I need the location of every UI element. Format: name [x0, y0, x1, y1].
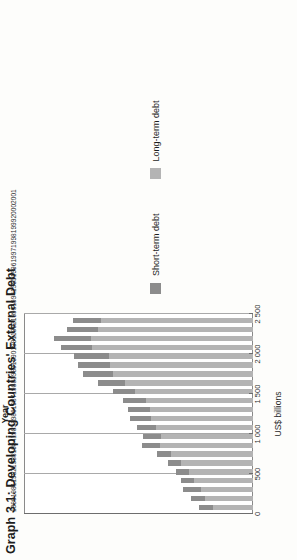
bar-column [24, 494, 253, 503]
bar-segment-short-term-debt [176, 469, 189, 474]
year-tick-label: 1991 [10, 336, 23, 351]
stacked-bar [183, 487, 253, 492]
year-tick-label: 2001 [10, 189, 23, 204]
bar-segment-long-term-debt [109, 353, 253, 358]
bar-segment-short-term-debt [142, 443, 159, 448]
year-tick-label: 1982 [10, 468, 23, 483]
year-tick-label: 2000 [10, 204, 23, 219]
stacked-bar [98, 380, 253, 385]
stacked-bar [61, 345, 253, 350]
bar-segment-short-term-debt [61, 345, 92, 350]
bar-segment-long-term-debt [92, 345, 253, 350]
stacked-bar [157, 451, 253, 456]
year-tick-label: 1987 [10, 395, 23, 410]
stacked-bar [143, 434, 253, 439]
legend-item: Short-term debt [150, 213, 161, 294]
bar-segment-long-term-debt [171, 451, 253, 456]
bar-series-container [24, 314, 253, 514]
bar-segment-long-term-debt [160, 443, 253, 448]
year-tick-label: 1998 [10, 233, 23, 248]
bar-segment-short-term-debt [78, 362, 110, 367]
year-tick-label: 1996 [10, 263, 23, 278]
bar-segment-long-term-debt [201, 487, 253, 492]
value-tick-label: 1 000 [253, 425, 262, 444]
bar-segment-long-term-debt [113, 371, 253, 376]
year-tick-label: 1997 [10, 248, 23, 263]
bar-segment-long-term-debt [156, 425, 253, 430]
bar-segment-long-term-debt [91, 336, 253, 341]
year-tick-label: 1994 [10, 292, 23, 307]
stacked-bar [83, 371, 253, 376]
bar-column [24, 459, 253, 468]
value-tick-label: 2 000 [253, 345, 262, 364]
bar-segment-short-term-debt [199, 505, 213, 510]
category-axis-title: Year [0, 314, 10, 514]
bar-column [24, 441, 253, 450]
bar-column [24, 396, 253, 405]
legend-swatch [150, 283, 161, 294]
bar-segment-short-term-debt [130, 416, 151, 421]
year-tick-label: 1993 [10, 307, 23, 322]
year-tick-label: 1986 [10, 409, 23, 424]
value-tick-label: 500 [253, 468, 262, 481]
bar-segment-short-term-debt [83, 371, 113, 376]
chart-figure: Graph 3.1: Developing Countries' Externa… [0, 0, 297, 560]
bar-segment-short-term-debt [123, 398, 146, 403]
bar-segment-short-term-debt [113, 389, 135, 394]
bar-column [24, 343, 253, 352]
bar-segment-long-term-debt [125, 380, 253, 385]
year-tick-label: 1995 [10, 277, 23, 292]
bar-column [24, 352, 253, 361]
bar-column [24, 414, 253, 423]
stacked-bar [168, 460, 253, 465]
bar-segment-short-term-debt [73, 318, 101, 323]
value-axis-title: US$ billions [273, 314, 283, 514]
stacked-bar [181, 478, 253, 483]
year-tick-label: 1999 [10, 219, 23, 234]
year-tick-label: 1989 [10, 365, 23, 380]
bar-column [24, 476, 253, 485]
bar-column [24, 432, 253, 441]
rotated-page-stage: Graph 3.1: Developing Countries' Externa… [0, 0, 297, 560]
bar-column [24, 405, 253, 414]
bar-column [24, 334, 253, 343]
year-tick-label: 1990 [10, 351, 23, 366]
stacked-bar [142, 443, 253, 448]
bar-segment-long-term-debt [151, 416, 253, 421]
bar-segment-long-term-debt [150, 407, 254, 412]
bar-segment-short-term-debt [183, 487, 200, 492]
bar-segment-long-term-debt [181, 460, 253, 465]
year-tick-label: 1980 [10, 497, 23, 512]
stacked-bar [54, 336, 253, 341]
bar-segment-short-term-debt [137, 425, 156, 430]
bar-column [24, 361, 253, 370]
stacked-bar [67, 327, 253, 332]
stacked-bar [73, 318, 253, 323]
value-tick-label: 1 500 [253, 385, 262, 404]
value-tick-label: 0 [253, 512, 262, 516]
bar-column [24, 485, 253, 494]
bar-segment-long-term-debt [101, 318, 253, 323]
stacked-bar [130, 416, 253, 421]
stacked-bar [78, 362, 253, 367]
bar-segment-long-term-debt [205, 496, 253, 501]
legend-item: Long-term debt [150, 100, 161, 179]
bar-segment-short-term-debt [54, 336, 91, 341]
year-tick-label: 1981 [10, 483, 23, 498]
bar-segment-long-term-debt [110, 362, 253, 367]
bar-column [24, 316, 253, 325]
legend-swatch [150, 168, 161, 179]
bar-column [24, 325, 253, 334]
bar-segment-short-term-debt [74, 353, 109, 358]
legend-label: Long-term debt [151, 100, 161, 161]
plot-area [24, 314, 253, 514]
stacked-bar [113, 389, 253, 394]
stacked-bar [191, 496, 253, 501]
stacked-bar [74, 353, 253, 358]
bar-column [24, 450, 253, 459]
bar-segment-long-term-debt [146, 398, 253, 403]
year-tick-label: 1985 [10, 424, 23, 439]
stacked-bar [123, 398, 253, 403]
bar-column [24, 503, 253, 512]
bar-segment-long-term-debt [161, 434, 253, 439]
